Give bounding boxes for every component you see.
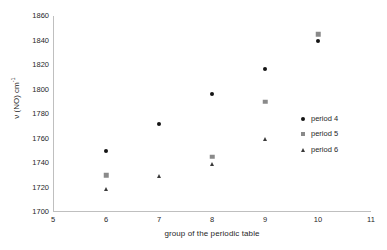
x-tick-label: 9 xyxy=(263,216,267,224)
x-tick-label: 8 xyxy=(210,216,214,224)
data-point xyxy=(157,174,161,178)
data-point xyxy=(210,92,214,96)
y-tick-label: 1820 xyxy=(32,61,49,69)
data-point xyxy=(263,67,267,71)
x-axis-line xyxy=(53,211,371,212)
legend-label: period 6 xyxy=(311,146,338,154)
data-point xyxy=(316,39,320,43)
data-point xyxy=(263,137,267,141)
x-tick-label: 7 xyxy=(157,216,161,224)
y-tick-label: 1840 xyxy=(32,37,49,45)
legend-item-period-4: period 4 xyxy=(300,114,338,123)
legend-item-period-5: period 5 xyxy=(300,130,338,139)
legend-label: period 5 xyxy=(311,130,338,138)
y-tick-label: 1800 xyxy=(32,86,49,94)
data-point xyxy=(104,149,108,153)
x-tick-label: 5 xyxy=(51,216,55,224)
y-tick-label: 1720 xyxy=(32,184,49,192)
scatter-chart: 170017201740176017801800182018401860 567… xyxy=(0,0,387,250)
x-tick-label: 6 xyxy=(104,216,108,224)
data-point xyxy=(316,32,321,37)
y-tick-label: 1740 xyxy=(32,159,49,167)
data-point xyxy=(104,187,108,191)
y-tick-label: 1860 xyxy=(32,12,49,20)
legend-item-period-6: period 6 xyxy=(300,145,338,154)
legend-label: period 4 xyxy=(311,115,338,123)
chart-legend: period 4 period 5 period 6 xyxy=(300,114,338,154)
y-axis-line xyxy=(53,16,54,212)
data-point xyxy=(104,173,109,178)
data-point xyxy=(157,122,161,126)
square-marker-icon xyxy=(300,132,306,137)
data-point xyxy=(263,100,268,105)
x-tick-label: 11 xyxy=(367,216,375,224)
x-tick-label: 10 xyxy=(314,216,322,224)
y-tick-label: 1760 xyxy=(32,135,49,143)
y-axis-title: ν (NO) cm-1 xyxy=(10,0,24,196)
triangle-marker-icon xyxy=(300,148,306,152)
x-axis-title: group of the periodic table xyxy=(53,229,371,238)
y-tick-label: 1780 xyxy=(32,110,49,118)
diamond-marker-icon xyxy=(300,117,306,121)
data-point xyxy=(210,155,215,160)
y-tick-label: 1700 xyxy=(32,208,49,216)
data-point xyxy=(210,162,214,166)
